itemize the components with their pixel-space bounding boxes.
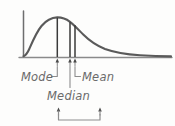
- mode-arrow-icon: [56, 59, 60, 66]
- mean-label: Mean: [82, 70, 114, 84]
- median-arrow-icon: [68, 59, 72, 66]
- median-label: Median: [47, 89, 90, 103]
- mean-leader-line: [75, 67, 81, 77]
- distribution-chart-svg: Mode Mean Median: [0, 0, 175, 126]
- statistics-distribution-diagram: Mode Mean Median: [0, 0, 175, 126]
- median-range-bracket: [57, 108, 102, 121]
- distribution-curve: [24, 17, 172, 56]
- mean-arrow-icon: [73, 59, 77, 66]
- mode-label: Mode: [21, 70, 53, 84]
